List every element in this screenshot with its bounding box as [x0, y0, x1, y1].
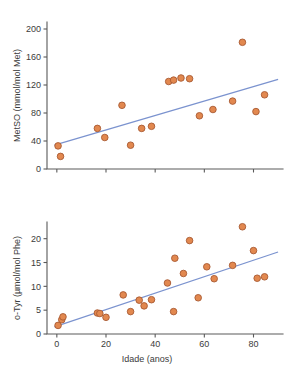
y-tick-label: 5	[36, 305, 41, 315]
data-point	[55, 143, 62, 150]
y-tick-label: 40	[31, 136, 41, 146]
panel-top: 04080120160200MetSO (mmol/mol Met)	[12, 22, 283, 174]
data-point	[239, 223, 246, 230]
data-point	[103, 314, 110, 321]
data-point	[136, 297, 143, 304]
data-point	[180, 270, 187, 277]
scatter-plot-figure: 04080120160200MetSO (mmol/mol Met)051015…	[0, 0, 295, 386]
data-point	[148, 296, 155, 303]
data-point	[186, 75, 193, 82]
data-point	[172, 255, 179, 262]
data-point	[60, 314, 67, 321]
y-tick-label: 120	[26, 80, 41, 90]
y-axis-title: o-Tyr (µmol/mol Phe)	[12, 236, 22, 320]
data-point	[229, 262, 236, 269]
x-axis-title: Idade (anos)	[122, 354, 173, 364]
data-point	[186, 237, 193, 244]
y-tick-label: 10	[31, 282, 41, 292]
data-point	[57, 153, 64, 160]
data-point	[164, 280, 171, 287]
y-tick-label: 200	[26, 24, 41, 34]
y-tick-label: 160	[26, 52, 41, 62]
data-point	[239, 39, 246, 46]
data-point	[170, 308, 177, 315]
data-point	[120, 292, 127, 299]
x-tick-label: 60	[199, 339, 209, 349]
data-point	[250, 247, 257, 254]
data-point	[253, 108, 260, 115]
panel-bottom: 05101520020406080o-Tyr (µmol/mol Phe)Ida…	[12, 222, 283, 364]
y-axis-title: MetSO (mmol/mol Met)	[12, 49, 22, 142]
data-point	[261, 274, 268, 281]
data-point	[203, 264, 210, 271]
data-point	[178, 75, 185, 82]
series-points	[55, 223, 268, 328]
x-tick-label: 40	[150, 339, 160, 349]
axis-spines	[47, 22, 283, 169]
y-tick-label: 80	[31, 108, 41, 118]
data-point	[261, 92, 268, 99]
data-point	[97, 310, 104, 317]
data-point	[254, 275, 261, 282]
trend-line	[54, 79, 278, 145]
y-tick-label: 15	[31, 258, 41, 268]
data-point	[211, 275, 218, 282]
data-point	[170, 77, 177, 84]
data-point	[138, 125, 145, 132]
data-point	[127, 308, 134, 315]
x-tick-label: 20	[101, 339, 111, 349]
data-point	[127, 142, 134, 149]
data-point	[94, 125, 101, 132]
series-points	[55, 39, 268, 160]
x-tick-label: 80	[248, 339, 258, 349]
data-point	[229, 98, 236, 105]
chart-canvas: 04080120160200MetSO (mmol/mol Met)051015…	[0, 0, 295, 386]
data-point	[196, 113, 203, 120]
data-point	[210, 106, 217, 113]
data-point	[148, 123, 155, 130]
data-point	[195, 294, 202, 301]
x-tick-label: 0	[54, 339, 59, 349]
data-point	[119, 102, 126, 109]
trend-line	[54, 252, 278, 327]
data-point	[141, 303, 148, 310]
y-tick-label: 0	[36, 164, 41, 174]
y-tick-label: 20	[31, 234, 41, 244]
y-tick-label: 0	[36, 329, 41, 339]
data-point	[101, 134, 108, 141]
